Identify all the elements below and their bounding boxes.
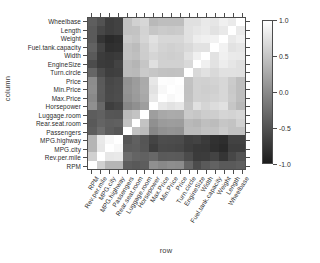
heatmap-cell <box>236 35 245 43</box>
heatmap-cell <box>236 135 245 143</box>
heatmap-cell <box>158 52 167 60</box>
heatmap-cell <box>193 127 202 135</box>
heatmap-cell <box>140 26 149 34</box>
y-tick <box>83 30 87 31</box>
heatmap-cell <box>236 110 245 118</box>
x-tick-top <box>233 13 234 17</box>
heatmap-cell <box>105 102 114 110</box>
x-tick-top <box>189 13 190 17</box>
heatmap-cell <box>105 94 114 102</box>
heatmap-cell <box>184 152 193 160</box>
x-tick-top <box>180 13 181 17</box>
heatmap-cell <box>88 52 97 60</box>
heatmap-cell <box>167 152 176 160</box>
heatmap-cell <box>114 127 123 135</box>
heatmap-cell <box>201 77 210 85</box>
y-tick-label: MPG.highway <box>40 137 81 144</box>
colorbar-tick <box>273 128 277 129</box>
heatmap-cell <box>175 68 184 76</box>
heatmap-cell <box>114 110 123 118</box>
heatmap-cell <box>140 68 149 76</box>
heatmap-cell <box>105 110 114 118</box>
heatmap-cell <box>132 35 141 43</box>
heatmap-cell <box>236 161 245 169</box>
heatmap-cell <box>88 43 97 51</box>
heatmap-cell <box>97 52 106 60</box>
heatmap-cell <box>123 18 132 26</box>
y-tick-label: MPG.city <box>54 145 81 152</box>
heatmap-cell <box>167 94 176 102</box>
heatmap-cell <box>236 26 245 34</box>
x-tick <box>197 170 198 174</box>
colorbar <box>262 20 273 164</box>
heatmap-cell <box>158 60 167 68</box>
heatmap-cell <box>88 127 97 135</box>
heatmap-cell <box>114 52 123 60</box>
heatmap-cell <box>97 94 106 102</box>
heatmap-cell <box>236 77 245 85</box>
heatmap-cell <box>167 43 176 51</box>
heatmap-cell <box>105 135 114 143</box>
heatmap-cell <box>158 26 167 34</box>
heatmap-cell <box>123 127 132 135</box>
heatmap-cell <box>114 18 123 26</box>
heatmap-cell <box>193 43 202 51</box>
heatmap-cell <box>210 135 219 143</box>
heatmap-cell <box>167 18 176 26</box>
y-tick-label: EngineSize <box>48 60 81 67</box>
heatmap-cell <box>193 85 202 93</box>
heatmap-cell <box>132 135 141 143</box>
heatmap-cell <box>228 85 237 93</box>
x-tick-top <box>153 13 154 17</box>
heatmap-cell <box>219 60 228 68</box>
heatmap-cell <box>219 68 228 76</box>
heatmap-cell <box>201 102 210 110</box>
heatmap-cell <box>140 77 149 85</box>
heatmap-cell <box>97 161 106 169</box>
y-tick-label: Turn.circle <box>50 69 81 76</box>
heatmap-cell <box>175 94 184 102</box>
heatmap-cell <box>228 43 237 51</box>
heatmap-cell <box>132 43 141 51</box>
heatmap-cell <box>114 152 123 160</box>
heatmap-cell <box>184 77 193 85</box>
heatmap-cell <box>105 152 114 160</box>
x-tick-top <box>118 13 119 17</box>
heatmap-cell <box>236 60 245 68</box>
x-tick <box>91 170 92 174</box>
heatmap-cell <box>88 85 97 93</box>
heatmap-cell <box>105 119 114 127</box>
y-tick-label: Max.Price <box>52 94 81 101</box>
heatmap-cell <box>88 60 97 68</box>
heatmap-cell <box>123 77 132 85</box>
heatmap-cell <box>175 52 184 60</box>
heatmap-cell <box>97 26 106 34</box>
heatmap-cell <box>228 77 237 85</box>
heatmap-cell <box>123 52 132 60</box>
x-tick-top <box>144 13 145 17</box>
colorbar-tick-label: -1.0 <box>279 161 291 168</box>
y-tick <box>83 123 87 124</box>
x-tick <box>215 170 216 174</box>
heatmap-cell <box>184 127 193 135</box>
heatmap-cell <box>88 135 97 143</box>
heatmap-cell <box>167 52 176 60</box>
x-tick-top <box>100 13 101 17</box>
heatmap-cell <box>140 127 149 135</box>
y-tick-right <box>246 106 250 107</box>
heatmap-cell <box>228 26 237 34</box>
heatmap-cell <box>97 102 106 110</box>
heatmap-cell <box>228 135 237 143</box>
heatmap-cell <box>201 94 210 102</box>
heatmap-cell <box>210 144 219 152</box>
heatmap-cell <box>175 152 184 160</box>
heatmap-cell <box>140 94 149 102</box>
heatmap-cell <box>158 43 167 51</box>
heatmap-cell <box>97 60 106 68</box>
heatmap-cell <box>114 135 123 143</box>
heatmap-cell <box>201 43 210 51</box>
heatmap-cell <box>210 68 219 76</box>
heatmap-cell <box>184 135 193 143</box>
x-tick <box>153 170 154 174</box>
y-tick <box>83 47 87 48</box>
